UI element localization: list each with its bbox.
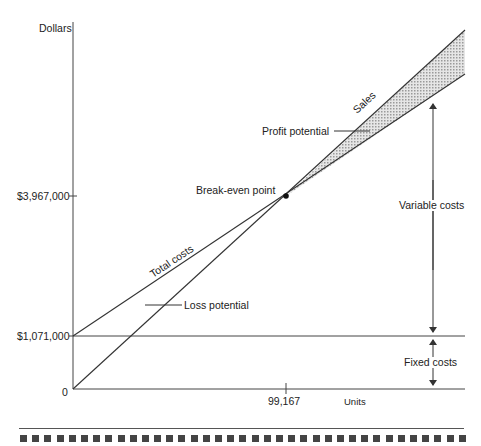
- break-even-label: Break-even point: [196, 185, 275, 196]
- footer-square: [227, 435, 234, 442]
- footer-square: [118, 435, 125, 442]
- footer-square: [422, 435, 429, 442]
- footer-square: [215, 435, 222, 442]
- variable-costs-label: Variable costs: [398, 200, 465, 211]
- footer-square: [349, 435, 356, 442]
- footer-square: [130, 435, 137, 442]
- footer-square: [178, 435, 185, 442]
- footer-square-band: [20, 435, 466, 442]
- footer-square: [239, 435, 246, 442]
- footer-square: [459, 435, 466, 442]
- y-tick-label-high: $3,967,000: [17, 191, 70, 202]
- footer-square: [300, 435, 307, 442]
- y-tick-label-zero: 0: [62, 387, 68, 398]
- footer-square: [325, 435, 332, 442]
- break-even-chart: Sales Total costs: [0, 0, 481, 446]
- footer-square: [264, 435, 271, 442]
- loss-potential-label: Loss potential: [184, 300, 249, 311]
- fixed-costs-label: Fixed costs: [403, 357, 458, 368]
- footer-square: [191, 435, 198, 442]
- sales-label: Sales: [350, 89, 377, 116]
- footer-separator: [19, 428, 464, 429]
- footer-square: [434, 435, 441, 442]
- y-tick-label-fixed: $1,071,000: [17, 331, 70, 342]
- footer-square: [105, 435, 112, 442]
- footer-square: [361, 435, 368, 442]
- footer-square: [386, 435, 393, 442]
- x-tick-label: 99,167: [268, 396, 300, 407]
- footer-square: [57, 435, 64, 442]
- footer-square: [313, 435, 320, 442]
- footer-square: [203, 435, 210, 442]
- footer-square: [93, 435, 100, 442]
- y-axis-label: Dollars: [39, 23, 72, 34]
- footer-square: [69, 435, 76, 442]
- footer-square: [398, 435, 405, 442]
- footer-square: [276, 435, 283, 442]
- footer-square: [81, 435, 88, 442]
- footer-square: [166, 435, 173, 442]
- footer-square: [410, 435, 417, 442]
- x-axis-label: Units: [344, 397, 366, 407]
- footer-square: [142, 435, 149, 442]
- footer-square: [44, 435, 51, 442]
- footer-square: [447, 435, 454, 442]
- break-even-point-marker: [283, 193, 289, 199]
- footer-square: [20, 435, 27, 442]
- footer-square: [252, 435, 259, 442]
- footer-square: [288, 435, 295, 442]
- footer-square: [337, 435, 344, 442]
- footer-square: [154, 435, 161, 442]
- profit-potential-label: Profit potential: [262, 126, 329, 137]
- footer-square: [32, 435, 39, 442]
- total-costs-label: Total costs: [147, 242, 195, 280]
- footer-square: [373, 435, 380, 442]
